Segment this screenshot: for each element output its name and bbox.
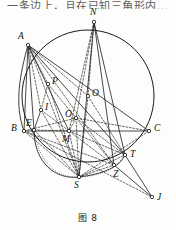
point-marker-Z bbox=[112, 163, 115, 166]
segment-AC bbox=[28, 45, 149, 131]
point-label-subscript-O1: 1 bbox=[71, 115, 74, 122]
dashed-segment-layer bbox=[24, 22, 152, 197]
point-label-E: E bbox=[26, 119, 32, 129]
point-label-P: P bbox=[52, 77, 58, 87]
segment-BJ bbox=[24, 131, 152, 197]
point-label-S: S bbox=[74, 181, 79, 191]
segment-ZJ bbox=[114, 165, 152, 197]
point-marker-S bbox=[77, 175, 80, 178]
segment-O1S bbox=[76, 118, 79, 177]
point-marker-E bbox=[32, 128, 35, 131]
point-label-T: T bbox=[130, 150, 135, 160]
point-marker-A bbox=[26, 43, 29, 46]
segment-NO1 bbox=[76, 22, 94, 118]
point-label-A: A bbox=[18, 32, 24, 42]
point-marker-N bbox=[92, 20, 95, 23]
segment-AZ bbox=[28, 45, 114, 165]
point-marker-C bbox=[147, 129, 150, 132]
point-label-I: I bbox=[45, 103, 48, 113]
point-marker-J bbox=[150, 195, 153, 198]
point-marker-T bbox=[123, 153, 126, 156]
point-label-Z: Z bbox=[113, 170, 118, 180]
segment-NS bbox=[79, 22, 94, 177]
segment-MZ bbox=[69, 131, 114, 165]
point-label-B: B bbox=[11, 124, 17, 134]
point-marker-B bbox=[22, 129, 25, 132]
segment-TJ bbox=[125, 155, 152, 197]
segment-SZ bbox=[79, 165, 114, 177]
point-label-O1: O1 bbox=[65, 110, 75, 121]
geometry-diagram bbox=[0, 0, 176, 230]
point-label-C: C bbox=[154, 124, 160, 134]
point-marker-O bbox=[86, 94, 89, 97]
figure-caption: 图 8 bbox=[0, 211, 176, 224]
segment-MS bbox=[69, 131, 79, 177]
point-label-J: J bbox=[157, 193, 161, 203]
point-label-N: N bbox=[90, 8, 96, 18]
point-label-M: M bbox=[62, 135, 70, 145]
segment-CO1 bbox=[76, 118, 149, 131]
point-marker-P bbox=[46, 82, 49, 85]
point-label-O: O bbox=[92, 89, 99, 99]
point-marker-M bbox=[67, 129, 70, 132]
figure-container: 一条边上，且在已知三角形内... ANBCEMPIOO1SZTJ 图 8 bbox=[0, 0, 176, 230]
point-marker-I bbox=[39, 108, 42, 111]
segment-AO bbox=[28, 45, 88, 96]
